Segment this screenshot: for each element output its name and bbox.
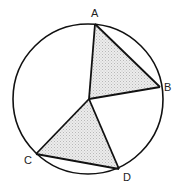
circle-diagram: A B C D	[0, 0, 179, 187]
label-a: A	[91, 7, 99, 19]
label-d: D	[123, 171, 131, 183]
label-b: B	[164, 81, 171, 93]
shaded-triangle-oab	[89, 24, 160, 99]
shaded-triangle-ocd	[36, 99, 119, 169]
diagram-canvas: A B C D	[0, 0, 179, 187]
label-c: C	[24, 154, 32, 166]
